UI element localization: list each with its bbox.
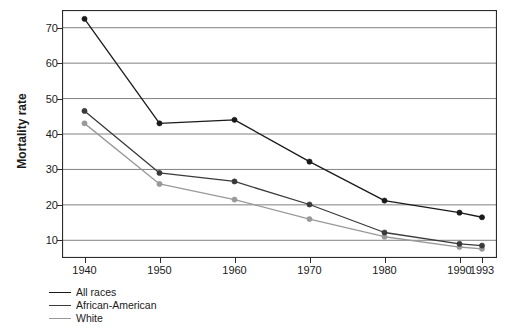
y-tick-label: 60 bbox=[28, 57, 58, 69]
x-tick-label: 1993 bbox=[470, 264, 494, 276]
x-axis-tick bbox=[160, 258, 161, 263]
x-tick-label: 1960 bbox=[222, 264, 246, 276]
data-point bbox=[232, 117, 237, 122]
x-tick-label: 1970 bbox=[297, 264, 321, 276]
y-tick-label: 50 bbox=[28, 93, 58, 105]
legend-label: All races bbox=[76, 286, 116, 298]
x-axis-tick bbox=[460, 258, 461, 263]
chart-legend: All racesAfrican-AmericanWhite bbox=[49, 286, 157, 325]
mortality-rate-line-chart: Mortality rate 10203040506070 1940195019… bbox=[0, 0, 527, 331]
y-tick-label: 20 bbox=[28, 199, 58, 211]
legend-item: African-American bbox=[49, 299, 157, 311]
x-tick-label: 1950 bbox=[147, 264, 171, 276]
x-tick-label: 1940 bbox=[72, 264, 96, 276]
y-tick-label: 10 bbox=[28, 234, 58, 246]
data-point bbox=[307, 216, 312, 221]
data-point bbox=[457, 241, 462, 246]
data-point bbox=[232, 179, 237, 184]
legend-item: White bbox=[49, 312, 157, 324]
y-tick-label: 30 bbox=[28, 163, 58, 175]
x-axis-tick bbox=[385, 258, 386, 263]
data-point bbox=[232, 197, 237, 202]
legend-line-swatch bbox=[49, 318, 71, 319]
data-point bbox=[157, 170, 162, 175]
series-line-all-races bbox=[85, 19, 483, 217]
series-line-white bbox=[85, 123, 483, 248]
x-axis-tick bbox=[235, 258, 236, 263]
data-point bbox=[82, 108, 87, 113]
data-point bbox=[307, 202, 312, 207]
data-point bbox=[382, 230, 387, 235]
legend-item: All races bbox=[49, 286, 157, 298]
data-point bbox=[157, 181, 162, 186]
y-axis-tick-labels: 10203040506070 bbox=[26, 0, 58, 331]
data-point bbox=[479, 215, 484, 220]
data-point bbox=[382, 198, 387, 203]
plot-area bbox=[62, 10, 497, 258]
legend-line-swatch bbox=[49, 292, 71, 293]
series-line-african-american bbox=[85, 111, 483, 246]
x-tick-label: 1980 bbox=[372, 264, 396, 276]
y-tick-label: 70 bbox=[28, 22, 58, 34]
x-axis-tick bbox=[85, 258, 86, 263]
data-point bbox=[82, 121, 87, 126]
legend-label: African-American bbox=[76, 299, 157, 311]
y-tick-label: 40 bbox=[28, 128, 58, 140]
plot-svg bbox=[62, 10, 497, 258]
data-point bbox=[307, 159, 312, 164]
x-axis-tick bbox=[482, 258, 483, 263]
x-axis-tick bbox=[310, 258, 311, 263]
legend-label: White bbox=[76, 312, 103, 324]
data-point bbox=[82, 16, 87, 21]
data-point bbox=[157, 121, 162, 126]
legend-line-swatch bbox=[49, 305, 71, 306]
data-point bbox=[457, 210, 462, 215]
data-point bbox=[479, 243, 484, 248]
x-tick-label: 1990 bbox=[447, 264, 471, 276]
